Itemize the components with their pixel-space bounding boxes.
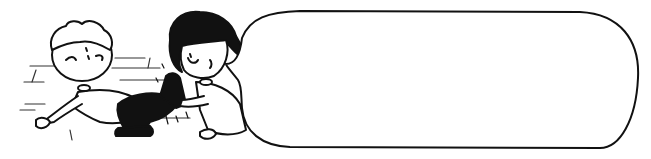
boy-character bbox=[36, 21, 186, 136]
speech-bubble-text bbox=[270, 30, 620, 130]
